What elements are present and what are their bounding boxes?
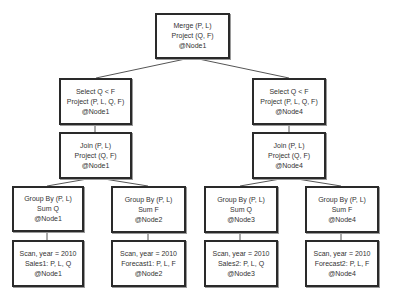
node-groupby-3: Group By (P, L) Sum Q @Node3 (204, 186, 278, 233)
node-line: @Node2 (135, 215, 163, 225)
node-line: @Node4 (328, 269, 356, 279)
node-groupby-4: Group By (P, L) Sum F @Node4 (305, 186, 379, 233)
node-line: @Node3 (227, 269, 255, 279)
node-scan-2: Scan, year = 2010 Forecast1: P, L, F @No… (111, 240, 186, 287)
node-line: Forecast1: P, L, F (121, 259, 176, 269)
edge-join-right-groupby-3 (240, 178, 286, 186)
node-scan-4: Scan, year = 2010 Forecast2: P, L, F @No… (305, 240, 379, 287)
node-select-right: Select Q < F Project (P, L, Q, F) @Node4 (252, 78, 326, 125)
node-line: Project (Q, F) (268, 151, 310, 161)
node-line: Group By (P, L) (24, 194, 72, 204)
node-line: Project (Q, F) (171, 31, 213, 41)
node-line: Group By (P, L) (217, 195, 265, 205)
node-line: Project (Q, F) (74, 151, 116, 161)
node-line: @Node4 (275, 161, 303, 171)
node-line: @Node2 (135, 269, 163, 279)
node-line: Scan, year = 2010 (19, 249, 76, 259)
node-line: Sum F (332, 205, 353, 215)
node-line: Sales1: P, L, Q (25, 259, 71, 269)
node-line: Select Q < F (76, 87, 115, 97)
node-line: Sum Q (37, 204, 59, 214)
node-groupby-1: Group By (P, L) Sum Q @Node1 (12, 186, 84, 232)
query-plan-diagram: Merge (P, L) Project (Q, F) @Node1 Selec… (0, 0, 394, 302)
edge-join-left-groupby-1 (47, 178, 93, 186)
node-line: @Node3 (227, 215, 255, 225)
node-line: Select Q < F (269, 87, 308, 97)
node-line: @Node4 (275, 107, 303, 117)
node-merge: Merge (P, L) Project (Q, F) @Node1 (155, 13, 230, 59)
node-line: Sum F (138, 205, 159, 215)
node-line: Forecast2: P, L, F (315, 259, 370, 269)
node-scan-1: Scan, year = 2010 Sales1: P, L, Q @Node1 (12, 240, 84, 287)
node-scan-3: Scan, year = 2010 Sales2: P, L, Q @Node3 (204, 240, 278, 287)
node-line: @Node1 (34, 269, 62, 279)
node-line: Group By (P, L) (125, 195, 173, 205)
node-line: @Node1 (34, 214, 62, 224)
node-line: @Node1 (82, 161, 110, 171)
node-line: @Node1 (82, 107, 110, 117)
node-line: Join (P, L) (80, 141, 111, 151)
node-line: Join (P, L) (274, 141, 305, 151)
node-join-right: Join (P, L) Project (Q, F) @Node4 (252, 132, 326, 179)
node-line: Sum Q (230, 205, 252, 215)
node-line: @Node4 (328, 215, 356, 225)
node-line: Scan, year = 2010 (120, 249, 177, 259)
edge-join-left-groupby-2 (98, 178, 148, 186)
edge-merge-select-right (194, 58, 289, 78)
node-line: Project (P, L, Q, F) (260, 97, 317, 107)
node-line: Sales2: P, L, Q (218, 259, 264, 269)
node-line: Scan, year = 2010 (313, 249, 370, 259)
node-line: Group By (P, L) (318, 195, 366, 205)
node-line: Project (P, L, Q, F) (67, 97, 124, 107)
node-join-left: Join (P, L) Project (Q, F) @Node1 (59, 132, 132, 179)
node-line: @Node1 (179, 41, 207, 51)
node-line: Scan, year = 2010 (212, 249, 269, 259)
edge-merge-select-left (96, 58, 190, 78)
node-line: Merge (P, L) (174, 21, 212, 31)
node-select-left: Select Q < F Project (P, L, Q, F) @Node1 (59, 78, 132, 125)
edge-join-right-groupby-4 (291, 178, 341, 186)
node-groupby-2: Group By (P, L) Sum F @Node2 (111, 186, 186, 233)
